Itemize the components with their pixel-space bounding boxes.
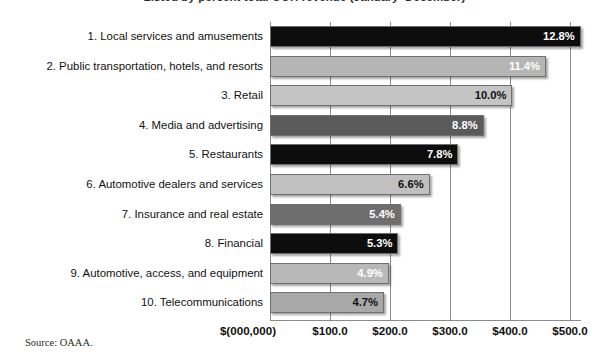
category-label: 4. Media and advertising [0,115,263,136]
table-row: 1. Local services and amusements12.8% [0,26,609,47]
bar-wrapper: 12.8% [270,26,581,47]
x-tick-500: $500.0 [530,324,609,337]
category-label: 9. Automotive, access, and equipment [0,263,263,284]
chart-title: Listed by percent total OOH revenue (Jan… [0,0,609,3]
bar-wrapper: 7.8% [270,144,458,165]
table-row: 8. Financial5.3% [0,233,609,254]
bar-value-label: 4.9% [357,263,383,284]
bar-value-label: 7.8% [427,144,453,165]
table-row: 2. Public transportation, hotels, and re… [0,56,609,77]
table-row: 3. Retail10.0% [0,85,609,106]
category-label: 6. Automotive dealers and services [0,174,263,195]
category-label: 2. Public transportation, hotels, and re… [0,56,263,77]
table-row: 4. Media and advertising8.8% [0,115,609,136]
bar-wrapper: 11.4% [270,56,546,77]
category-label: 3. Retail [0,85,263,106]
bar-value-label: 5.4% [369,204,395,225]
category-label: 10. Telecommunications [0,292,263,313]
category-label: 1. Local services and amusements [0,26,263,47]
bar-value-label: 5.3% [367,233,393,254]
bar-wrapper: 10.0% [270,85,512,106]
bar-value-label: 10.0% [475,85,507,106]
chart-container: Listed by percent total OOH revenue (Jan… [0,0,609,361]
table-row: 5. Restaurants7.8% [0,144,609,165]
table-row: 7. Insurance and real estate5.4% [0,204,609,225]
bar-wrapper: 5.4% [270,204,401,225]
bar [270,26,581,47]
bar-value-label: 4.7% [353,292,379,313]
source-note: Source: OAAA. [25,337,93,348]
table-row: 9. Automotive, access, and equipment4.9% [0,263,609,284]
bar-value-label: 12.8% [543,26,575,47]
bar-value-label: 8.8% [452,115,478,136]
category-label: 5. Restaurants [0,144,263,165]
bar [270,56,546,77]
table-row: 10. Telecommunications4.7% [0,292,609,313]
table-row: 6. Automotive dealers and services6.6% [0,174,609,195]
category-label: 8. Financial [0,233,263,254]
bar-value-label: 6.6% [398,174,424,195]
bar-wrapper: 8.8% [270,115,484,136]
bar-wrapper: 6.6% [270,174,430,195]
bar-value-label: 11.4% [509,56,540,77]
bar-wrapper: 5.3% [270,233,398,254]
x-axis-line [270,320,581,321]
bar-wrapper: 4.9% [270,263,389,284]
x-axis-unit-label: $(000,000) [196,324,276,337]
bar-wrapper: 4.7% [270,292,384,313]
category-label: 7. Insurance and real estate [0,204,263,225]
